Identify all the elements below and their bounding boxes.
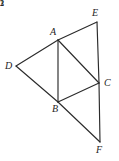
edge-DA	[16, 40, 58, 66]
vertex-label-C: C	[104, 78, 111, 88]
edge-DB	[16, 66, 58, 102]
vertex-label-E: E	[92, 8, 98, 18]
vertex-label-B: B	[52, 104, 58, 114]
vertex-label-D: D	[5, 61, 12, 71]
edge-BF	[58, 102, 100, 142]
vertex-label-A: A	[50, 27, 56, 37]
vertex-label-F: F	[96, 145, 102, 155]
figure-canvas	[0, 0, 119, 161]
edge-AE	[58, 22, 97, 40]
edge-group	[16, 22, 100, 142]
edge-BC	[58, 83, 99, 102]
edge-CF	[99, 83, 100, 142]
angle-label-3: 3	[0, 0, 4, 8]
geometry-figure: D A E B C F 1 2 3	[0, 0, 119, 161]
edge-EC	[97, 22, 99, 83]
edge-AC	[58, 40, 99, 83]
